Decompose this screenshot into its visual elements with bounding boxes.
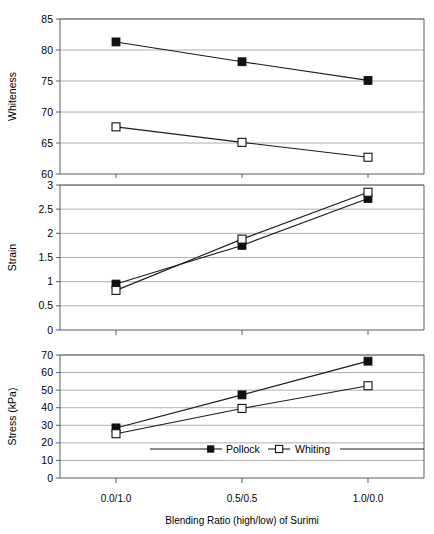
y-axis-title: Stress (kPa) [6,388,18,446]
ytick-label-20: 20 [41,436,53,448]
plot-strain: 00.511.522.53Strain [0,178,434,348]
datapoint-whiting-1 [238,404,246,412]
datapoint-whiting-2 [364,382,372,390]
ytick-label-60: 60 [41,366,53,378]
legend: PollockWhiting [150,443,424,455]
plot-whiteness: 606570758085Whiteness [0,0,434,178]
datapoint-pollock-0 [112,38,120,46]
ytick-label-1.5: 1.5 [38,251,53,263]
ytick-label-65: 65 [41,137,53,149]
panel-stress: 010203040506070Stress (kPa)PollockWhitin… [0,348,434,534]
xtick-label-0: 0.0/1.0 [101,493,132,504]
legend-marker-whiting [276,445,283,452]
ytick-label-30: 30 [41,419,53,431]
datapoint-pollock-1 [238,58,246,66]
datapoint-whiting-0 [112,286,120,294]
xtick-label-2: 1.0/0.0 [353,493,384,504]
datapoint-pollock-2 [364,357,372,365]
datapoint-whiting-0 [112,430,120,438]
datapoint-pollock-1 [238,391,246,399]
legend-label-whiting: Whiting [295,443,330,455]
ytick-label-70: 70 [41,349,53,361]
y-axis-title: Strain [6,244,18,272]
ytick-label-2: 2 [47,227,53,239]
ytick-label-85: 85 [41,13,53,25]
datapoint-whiting-2 [364,188,372,196]
figure-three-panel-surimi-chart: 606570758085Whiteness 00.511.522.53Strai… [0,0,434,534]
datapoint-whiting-1 [238,138,246,146]
datapoint-whiting-1 [238,235,246,243]
ytick-label-0: 0 [47,472,53,484]
xtick-label-1: 0.5/0.5 [227,493,258,504]
y-axis-title: Whiteness [6,72,18,121]
ytick-label-10: 10 [41,454,53,466]
datapoint-pollock-2 [364,76,372,84]
x-axis-title: Blending Ratio (high/low) of Surimi [165,515,318,526]
ytick-label-60: 60 [41,168,53,178]
plot-stress: 010203040506070Stress (kPa)PollockWhitin… [0,348,434,534]
ytick-label-0.5: 0.5 [38,299,53,311]
ytick-label-75: 75 [41,75,53,87]
datapoint-whiting-0 [112,123,120,131]
legend-marker-pollock [208,446,214,452]
panel-whiteness: 606570758085Whiteness [0,0,434,178]
legend-label-pollock: Pollock [226,443,261,455]
ytick-label-80: 80 [41,44,53,56]
ytick-label-50: 50 [41,384,53,396]
ytick-label-0: 0 [47,324,53,336]
ytick-label-40: 40 [41,401,53,413]
ytick-label-2.5: 2.5 [38,203,53,215]
datapoint-whiting-2 [364,153,372,161]
panel-strain: 00.511.522.53Strain [0,178,434,348]
ytick-label-1: 1 [47,275,53,287]
ytick-label-3: 3 [47,179,53,191]
ytick-label-70: 70 [41,106,53,118]
